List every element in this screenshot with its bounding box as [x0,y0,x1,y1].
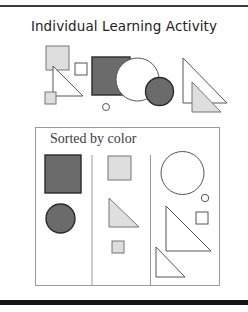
col3-white-large-circle-shape [161,152,204,195]
mixed-shapes-group [45,46,227,112]
shapes-canvas [0,0,248,312]
col1-dark-circle-shape [46,204,75,233]
bottom-rule [0,300,248,305]
col3-white-small-circle-shape [201,194,208,201]
dark-circle-shape [146,78,174,106]
white-small-square-shape [75,63,87,75]
white-small-circle-shape [103,104,110,111]
col2-light-triangle-shape [109,198,139,227]
col1-dark-square-shape [45,155,81,193]
col3-white-small-square-shape [196,212,208,224]
col2-light-small-square-shape [112,241,124,253]
light-large-square-shape [46,46,69,70]
col2-light-square-shape [108,156,131,180]
light-small-square-shape [45,92,56,104]
sorted-shapes-group [45,152,211,278]
